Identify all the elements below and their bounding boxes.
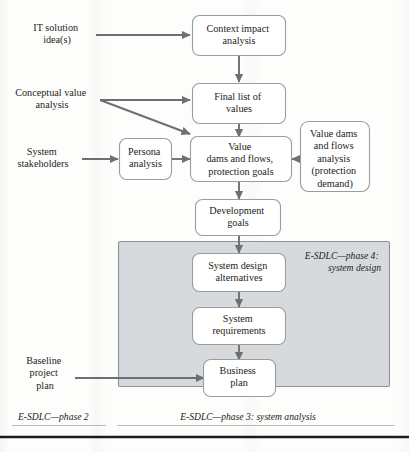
phase2-label: E-SDLC—phase 2 <box>17 411 89 422</box>
arrow-conceptual-to-value-dams <box>100 100 190 134</box>
flow-diagram: Context impact analysis Final list of va… <box>0 0 409 452</box>
input-baseline-project-plan-label: Baseline project plan <box>26 355 64 391</box>
figure-container: Context impact analysis Final list of va… <box>0 0 409 452</box>
node-value-dams-analysis-label: Value dams and flows analysis (protectio… <box>310 128 360 190</box>
input-it-solution-idea-label: IT solution idea(s) <box>33 22 80 46</box>
input-conceptual-value-analysis-label: Conceptual value analysis <box>15 87 89 110</box>
phase3-label: E-SDLC—phase 3: system analysis <box>179 411 316 422</box>
input-system-stakeholders-label: System stakeholders <box>18 146 69 169</box>
node-system-design-alternatives-label: System design alternatives <box>208 260 270 283</box>
node-persona-analysis-label: Persona analysis <box>128 146 163 169</box>
